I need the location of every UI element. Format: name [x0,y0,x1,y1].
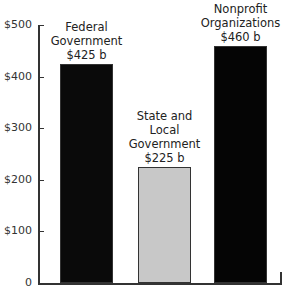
y-tick-mark [39,231,44,232]
bar-state-and-local-government [138,167,191,283]
bar-category-label: Local [115,123,215,137]
y-tick-label: $200 [2,174,32,186]
y-tick-label: $100 [2,225,32,237]
y-tick-mark [39,128,44,129]
x-axis-end-tick [280,272,282,285]
y-tick-mark [39,77,44,78]
y-tick-label: $400 [2,71,32,83]
bar-value-label: $425 b [37,48,137,62]
bar-label: FederalGovernment$425 b [37,20,137,62]
bar-nonprofit-organizations [214,46,267,283]
bar-chart: 0$100$200$300$400$500 FederalGovernment$… [0,0,287,294]
bar-federal-government [60,64,113,283]
bar-label: NonprofitOrganizations$460 b [191,2,288,44]
bar-category-label: Federal [37,20,137,34]
y-tick-label: $500 [2,19,32,31]
bar-category-label: State and [115,109,215,123]
bar-value-label: $225 b [115,151,215,165]
bar-label: State andLocalGovernment$225 b [115,109,215,165]
y-tick-label: 0 [2,277,32,289]
bar-value-label: $460 b [191,30,288,44]
y-tick-label: $300 [2,122,32,134]
bar-category-label: Nonprofit [191,2,288,16]
bar-category-label: Government [115,137,215,151]
bar-category-label: Organizations [191,16,288,30]
bar-category-label: Government [37,34,137,48]
y-axis-line [38,25,40,284]
x-axis-line [38,283,281,285]
y-tick-mark [39,180,44,181]
